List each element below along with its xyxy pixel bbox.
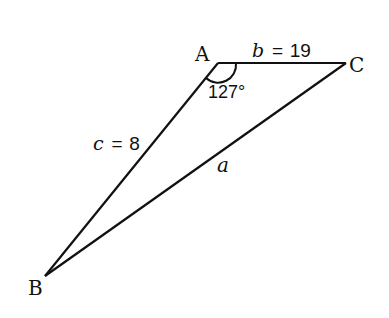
side-a-line	[45, 63, 346, 276]
side-c-var: c	[93, 132, 104, 154]
vertex-c-label: C	[349, 53, 364, 77]
triangle-diagram: A C B b = 19 c = 8 a 127°	[0, 0, 389, 318]
side-b-var: b	[252, 39, 264, 61]
side-c-eq: =	[111, 133, 122, 154]
angle-a-label: 127°	[208, 82, 245, 102]
side-c-label: c = 8	[93, 132, 140, 154]
side-c-line	[45, 63, 218, 276]
vertex-a-label: A	[194, 42, 210, 66]
side-a-label: a	[217, 153, 229, 177]
side-b-label: b = 19	[252, 39, 311, 61]
side-b-eq: =	[272, 40, 283, 61]
side-c-value: 8	[129, 133, 140, 154]
side-b-value: 19	[290, 40, 311, 61]
vertex-b-label: B	[28, 276, 43, 300]
